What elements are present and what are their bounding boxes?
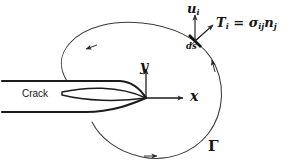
traction-equation-label: Ti = σijnj <box>216 16 277 29</box>
arc-element-label: ds <box>186 42 197 51</box>
coordinate-axes <box>146 69 183 98</box>
normal-subscript: j <box>274 21 277 31</box>
crack-tip-lens <box>62 88 146 100</box>
stress-subscript: ij <box>258 21 264 31</box>
traction-subscript: i <box>226 21 229 31</box>
displacement-subscript: i <box>196 7 199 17</box>
traction-vector <box>195 25 213 41</box>
traction-symbol: T <box>216 15 226 30</box>
contour-label: Γ <box>208 139 219 154</box>
crack-contour-diagram: ui Ti = σijnj ds y x Γ Crack <box>0 0 294 168</box>
y-axis-label: y <box>140 59 148 73</box>
displacement-label: ui <box>187 2 200 15</box>
crack-label: Crack <box>22 89 48 99</box>
stress-symbol: σ <box>249 15 259 30</box>
x-axis-label: x <box>190 89 198 103</box>
contour-arrow-top <box>86 45 97 49</box>
traction-equals: = <box>229 15 249 30</box>
normal-symbol: n <box>264 15 273 30</box>
